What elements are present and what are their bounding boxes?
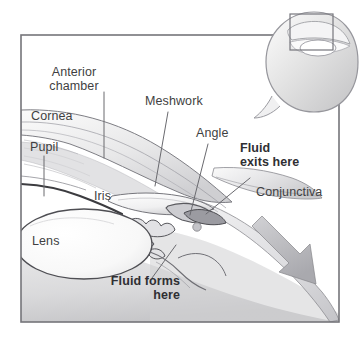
label-meshwork: Meshwork bbox=[145, 95, 203, 109]
label-anterior-chamber: Anterior chamber bbox=[44, 66, 104, 93]
label-cornea: Cornea bbox=[31, 110, 73, 124]
figure-canvas: Anterior chamber Cornea Pupil Meshwork A… bbox=[0, 0, 360, 342]
eye-anatomy-illustration bbox=[0, 0, 360, 342]
label-fluid-forms-here: Fluid forms here bbox=[104, 275, 180, 302]
label-iris: Iris bbox=[94, 190, 111, 204]
label-pupil: Pupil bbox=[30, 141, 58, 155]
inset-lens bbox=[300, 40, 336, 56]
label-conjunctiva: Conjunctiva bbox=[256, 186, 322, 200]
whole-eye-inset bbox=[254, 12, 358, 118]
label-lens: Lens bbox=[32, 235, 60, 249]
schlemms-canal bbox=[193, 223, 201, 231]
label-angle: Angle bbox=[196, 127, 228, 141]
label-fluid-exits-here: Fluid exits here bbox=[240, 142, 299, 169]
